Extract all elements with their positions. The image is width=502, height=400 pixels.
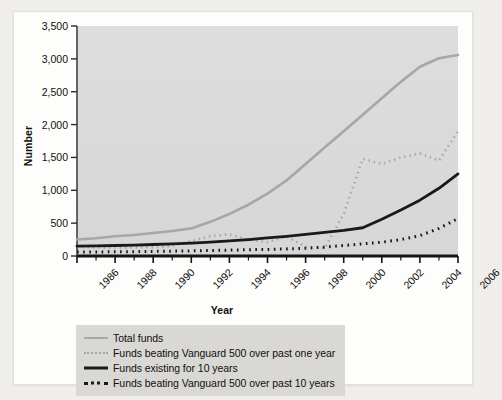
legend-item: Funds existing for 10 years (84, 360, 335, 375)
x-axis-title: Year (182, 304, 262, 316)
y-axis-title: Number (22, 116, 34, 176)
legend-item: Funds beating Vanguard 500 over past one… (84, 345, 335, 360)
legend-item-label: Funds beating Vanguard 500 over past 10 … (113, 377, 335, 389)
legend-item-label: Total funds (113, 332, 163, 344)
x-axis-tick-label: 2006 (477, 266, 502, 291)
x-axis-tick-label: 1998 (324, 266, 349, 291)
x-axis-tick-label: 2000 (363, 266, 388, 291)
gray-dotted-line-icon (84, 348, 108, 358)
legend-item: Funds beating Vanguard 500 over past 10 … (84, 375, 335, 390)
legend-item-label: Funds existing for 10 years (113, 362, 238, 374)
black-dotted-line-icon (84, 378, 108, 388)
x-axis-tick-label: 1986 (96, 266, 121, 291)
x-axis-tick-label: 2004 (439, 266, 464, 291)
x-axis-tick-label: 2002 (401, 266, 426, 291)
x-axis-tick-label: 1996 (286, 266, 311, 291)
black-solid-line-icon (84, 363, 108, 373)
x-axis-tick-label: 1994 (248, 266, 273, 291)
gray-solid-line-icon (84, 333, 108, 343)
x-axis-tick-label: 1992 (210, 266, 235, 291)
chart-figure: 05001,0001,5002,0002,5003,0003,500 19861… (14, 12, 474, 386)
x-axis-tick-label: 1990 (172, 266, 197, 291)
figure-page: 05001,0001,5002,0002,5003,0003,500 19861… (13, 11, 473, 385)
chart-legend: Total funds Funds beating Vanguard 500 o… (76, 325, 345, 396)
x-axis-tick-label: 1988 (134, 266, 159, 291)
legend-item: Total funds (84, 330, 335, 345)
legend-item-label: Funds beating Vanguard 500 over past one… (113, 347, 335, 359)
